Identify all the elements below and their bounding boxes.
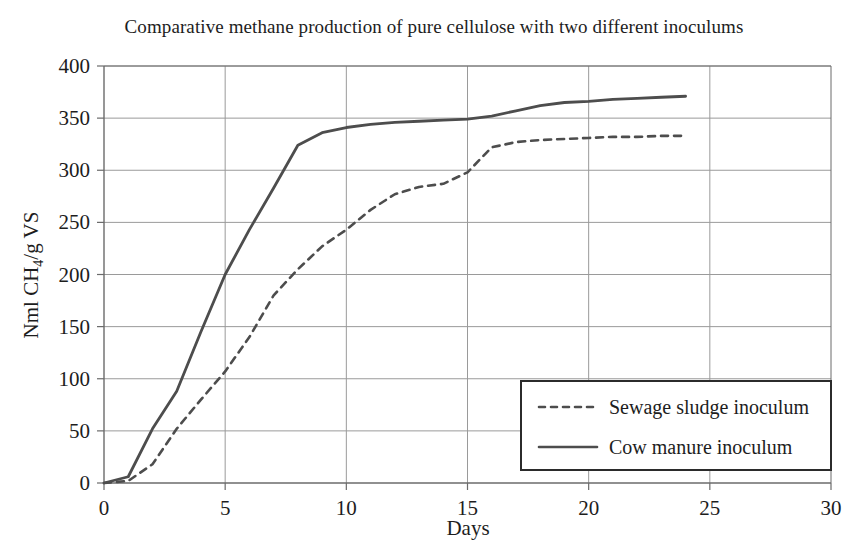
y-tick-label: 300 [59, 158, 91, 182]
y-tick-label: 400 [59, 54, 91, 78]
chart-legend: Sewage sludge inoculumCow manure inoculu… [521, 381, 831, 470]
chart-plot-svg: 050100150200250300350400 051015202530 Nm… [0, 0, 868, 560]
y-axis-title: Nml CH4/g VS [19, 212, 46, 339]
y-tick-label: 350 [59, 106, 91, 130]
x-tick-label: 25 [699, 496, 720, 520]
y-tick-label: 250 [59, 210, 91, 234]
x-axis-title: Days [446, 516, 489, 540]
y-tick-label: 50 [69, 419, 90, 443]
x-tick-label: 10 [336, 496, 357, 520]
chart-figure: Comparative methane production of pure c… [0, 0, 868, 560]
legend-label-2: Cow manure inoculum [609, 436, 793, 458]
y-tick-label: 150 [59, 315, 91, 339]
y-axis-tick-labels: 050100150200250300350400 [59, 54, 91, 495]
x-tick-label: 0 [99, 496, 110, 520]
y-tick-label: 200 [59, 263, 91, 287]
y-axis-title-text: Nml CH4/g VS [19, 212, 46, 339]
legend-label-1: Sewage sludge inoculum [609, 396, 809, 419]
x-tick-label: 20 [578, 496, 599, 520]
y-tick-label: 0 [80, 471, 91, 495]
x-tick-label: 5 [220, 496, 231, 520]
x-tick-label: 30 [821, 496, 842, 520]
y-tick-label: 100 [59, 367, 91, 391]
x-axis-title-text: Days [446, 516, 489, 540]
